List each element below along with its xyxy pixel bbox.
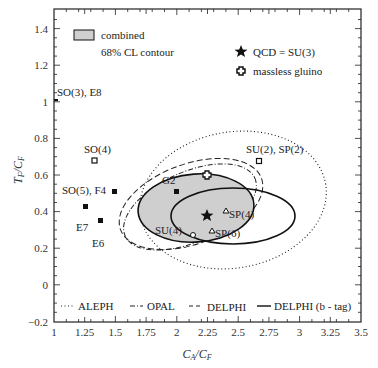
y-tick: 1: [43, 96, 49, 108]
legend-gluino-label: massless gluino: [253, 65, 323, 77]
y-tick-labels: 1.4 1.2 1 0.8 0.6 0.4 0.2 0 −0.2: [28, 23, 48, 328]
y-tick: 0.4: [34, 205, 48, 217]
legend-contour-label: 68% CL contour: [101, 46, 174, 58]
legend-qcd-label: QCD = SU(3): [253, 46, 315, 59]
x-tick: 3.25: [321, 326, 341, 338]
legend-star-icon: [235, 45, 248, 57]
legend-combined-label: combined: [101, 29, 145, 41]
label-so3: SO(3), E8: [57, 86, 102, 99]
label-sp6: SP(6): [215, 227, 240, 240]
point-labels: SO(3), E8 SO(4) SO(5), F4 E7 E6 G2 SU(4)…: [57, 86, 304, 249]
y-tick: 0: [43, 279, 49, 291]
legend-cross-icon: [237, 67, 245, 75]
contours: [107, 117, 338, 284]
su2-marker: [257, 159, 262, 164]
x-tick: 2.5: [231, 326, 245, 338]
x-tick: 1.75: [136, 326, 156, 338]
legend-delphi-label: DELPHI: [207, 301, 246, 313]
chart-canvas: 1 1.25 1.5 1.75 2 2.25 2.5 2.75 3 3.25 3…: [0, 0, 378, 368]
e6-marker: [98, 218, 103, 223]
label-g2: G2: [162, 174, 175, 186]
label-e7: E7: [76, 221, 89, 233]
label-su2: SU(2), SP(2): [246, 143, 304, 156]
x-tick: 2: [174, 326, 180, 338]
x-tick: 1.5: [109, 326, 123, 338]
label-sp4: SP(4): [229, 208, 254, 221]
legend-opal-label: OPAL: [147, 300, 175, 312]
x-tick: 3.5: [354, 326, 368, 338]
y-tick: 1.2: [34, 59, 48, 71]
so4-marker: [92, 158, 97, 163]
label-su4: SU(4): [155, 224, 182, 237]
legend-combined: combined 68% CL contour: [74, 29, 174, 58]
g2-marker: [174, 189, 179, 194]
label-so5: SO(5), F4: [62, 184, 107, 197]
legend-delphi-btag-label: DELPHI (b - tag): [274, 300, 352, 313]
x-axis-title: CA/CF: [182, 347, 211, 362]
su4-marker: [191, 233, 196, 238]
y-tick: 0.8: [34, 132, 48, 144]
label-so4: SO(4): [84, 143, 111, 156]
x-tick: 3: [297, 326, 303, 338]
y-tick: 1.4: [34, 23, 48, 35]
x-tick: 1.25: [75, 326, 95, 338]
x-tick-labels: 1 1.25 1.5 1.75 2 2.25 2.5 2.75 3 3.25 3…: [51, 326, 368, 338]
legend-markers: QCD = SU(3) massless gluino: [235, 45, 323, 77]
legend-aleph-label: ALEPH: [78, 300, 114, 312]
x-tick: 1: [51, 326, 57, 338]
y-tick: −0.2: [28, 316, 48, 328]
y-tick: 0.6: [34, 169, 48, 181]
label-e6: E6: [92, 237, 105, 249]
x-tick: 2.25: [198, 326, 218, 338]
y-axis-title: TF/CF: [11, 156, 26, 184]
so5-marker: [112, 189, 117, 194]
e7-marker: [83, 204, 88, 209]
legend-contour-styles: ALEPH OPAL DELPHI DELPHI (b - tag): [61, 300, 352, 313]
combined-swatch: [74, 30, 94, 40]
y-tick: 0.2: [34, 242, 48, 254]
x-tick: 2.75: [259, 326, 279, 338]
